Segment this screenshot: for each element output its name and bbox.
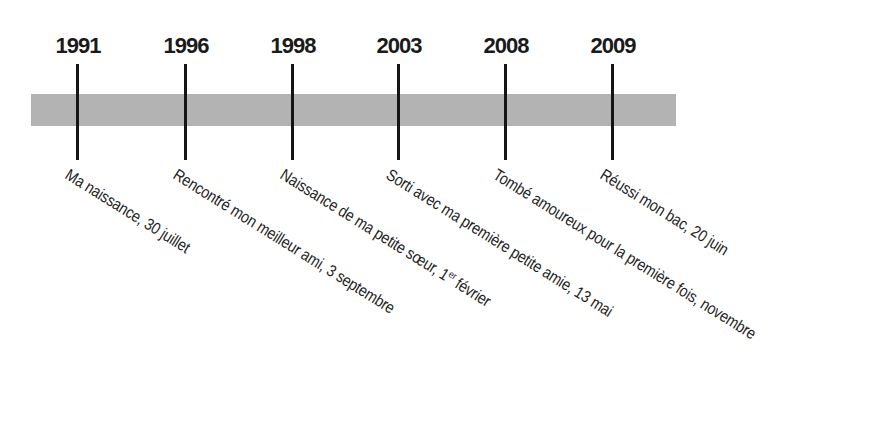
event-label: Sorti avec ma première petite amie, 13 m… (383, 165, 616, 321)
event-tick (504, 64, 507, 160)
event-year: 2009 (591, 33, 636, 59)
event-tick (397, 64, 400, 160)
event-year: 1991 (56, 33, 101, 59)
event-tick (291, 64, 294, 160)
event-year: 1996 (164, 33, 209, 59)
event-label: Rencontré mon meilleur ami, 3 septembre (170, 165, 398, 318)
timeline: 1991 Ma naissance, 30 juillet 1996 Renco… (0, 0, 895, 431)
event-label-text-end: février (449, 272, 494, 310)
event-label: Naissance de ma petite sœur, 1er février (277, 165, 494, 311)
event-label-text: Naissance de ma petite sœur, 1 (277, 165, 452, 284)
event-tick (76, 64, 79, 160)
event-tick (184, 64, 187, 160)
event-tick (611, 64, 614, 160)
event-year: 1998 (271, 33, 316, 59)
timeline-bar (31, 94, 676, 126)
event-year: 2003 (377, 33, 422, 59)
event-year: 2008 (484, 33, 529, 59)
